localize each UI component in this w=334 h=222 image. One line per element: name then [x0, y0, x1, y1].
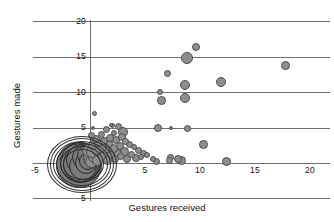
data-point: [281, 61, 290, 70]
data-point: [164, 70, 171, 77]
y-tick-label-5: 5: [66, 194, 86, 203]
data-point: [184, 125, 191, 132]
data-point: [199, 140, 208, 149]
y-tick-label-20: 20: [66, 17, 86, 26]
x-tick-label-15: 15: [243, 166, 267, 175]
x-tick-label-10: 10: [188, 166, 212, 175]
data-point: [138, 154, 144, 160]
y-tick-label-15: 15: [66, 52, 86, 61]
x-tick-label-20: 20: [298, 166, 322, 175]
data-point: [91, 126, 95, 130]
data-point: [180, 80, 190, 90]
x-tick-label--5: -5: [23, 166, 47, 175]
data-point: [157, 89, 163, 95]
plot-area: 20151055-55101520: [0, 0, 334, 222]
x-axis-title: Gestures received: [0, 203, 334, 213]
bubble-scatter-chart: 20151055-55101520 Gestures received Gest…: [0, 0, 334, 222]
data-point: [216, 77, 226, 87]
data-point: [180, 93, 190, 103]
x-tick-label-5: 5: [133, 166, 157, 175]
data-point: [92, 111, 97, 116]
data-point: [98, 131, 105, 138]
y-axis-title: Gestures made: [12, 83, 22, 148]
data-point: [157, 96, 166, 105]
data-point: [63, 149, 101, 180]
data-point: [111, 130, 117, 136]
y-tick-label-10: 10: [66, 88, 86, 97]
data-point: [169, 126, 173, 130]
data-point: [192, 43, 200, 51]
data-point: [181, 52, 193, 64]
data-point: [154, 124, 162, 132]
data-point: [122, 138, 129, 145]
y-tick-label-5: 5: [66, 123, 86, 132]
data-point: [222, 157, 231, 166]
data-point: [174, 155, 182, 163]
